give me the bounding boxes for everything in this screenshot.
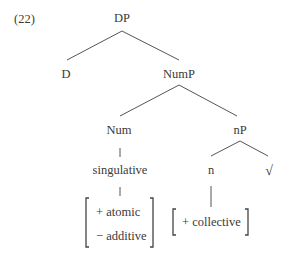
right-bracket-close: [245, 209, 248, 235]
num-feature-matrix: + atomic − additive: [86, 198, 153, 247]
example-number: (22): [14, 12, 35, 26]
n-feature-matrix: + collective: [173, 209, 248, 235]
edge-dp-d: [67, 31, 122, 60]
feature-atomic: + atomic: [96, 205, 141, 219]
node-np: nP: [233, 123, 246, 137]
node-n: n: [208, 163, 215, 177]
node-num: Num: [107, 123, 132, 137]
node-nump: NumP: [163, 67, 195, 81]
edge-nump-num: [120, 85, 179, 116]
node-dp: DP: [114, 11, 130, 25]
left-bracket-open: [86, 198, 89, 247]
node-singulative: singulative: [93, 163, 148, 177]
node-root: √: [265, 163, 273, 178]
edge-dp-nump: [122, 31, 179, 60]
left-bracket-close: [150, 198, 153, 247]
edge-np-root: [240, 141, 268, 156]
feature-additive: − additive: [96, 229, 147, 243]
node-d: D: [61, 67, 70, 81]
edge-np-n: [211, 141, 240, 156]
feature-collective: + collective: [182, 215, 241, 229]
right-bracket-open: [173, 209, 176, 235]
syntax-tree: (22) DP D NumP Num nP n √ singulative + …: [0, 0, 290, 260]
edge-nump-np: [179, 85, 237, 116]
